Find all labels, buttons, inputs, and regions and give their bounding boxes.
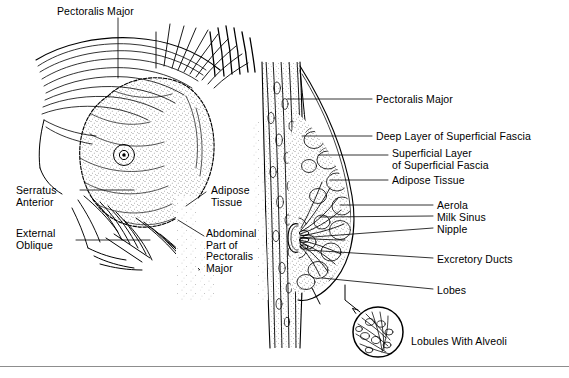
label-pectoralis-major-top: Pectoralis Major [57, 6, 134, 18]
label-adipose-tissue-left: Adipose Tissue [211, 185, 250, 208]
lobule-inset-circle [353, 307, 403, 357]
axillary-fiber-bundles [156, 24, 248, 88]
inset-connector [312, 285, 360, 313]
label-excretory-ducts: Excretory Ducts [437, 254, 513, 266]
label-superficial-layer-superficial-fascia: Superficial Layer of Superficial Fascia [392, 148, 489, 171]
label-serratus-anterior: Serratus Anterior [16, 185, 56, 208]
thoracic-lateral-wall [39, 120, 62, 194]
label-milk-sinus: Milk Sinus [437, 212, 486, 224]
anatomy-illustration [0, 0, 569, 378]
breast-anatomy-figure: Pectoralis Major Serratus Anterior Exter… [0, 0, 569, 378]
label-aerola: Aerola [437, 200, 468, 212]
label-lobes: Lobes [437, 285, 466, 297]
breast-parenchyma [288, 112, 352, 293]
label-nipple: Nipple [437, 224, 467, 236]
label-abdominal-part-pectoralis: Abdominal Part of Pectoralis Major [206, 228, 257, 274]
label-adipose-tissue-right: Adipose Tissue [392, 175, 465, 187]
label-pectoralis-major-right: Pectoralis Major [376, 94, 453, 106]
label-lobules-with-alveoli: Lobules With Alveoli [411, 336, 507, 348]
label-deep-layer-superficial-fascia: Deep Layer of Superficial Fascia [376, 131, 531, 143]
label-external-oblique: External Oblique [16, 228, 55, 251]
